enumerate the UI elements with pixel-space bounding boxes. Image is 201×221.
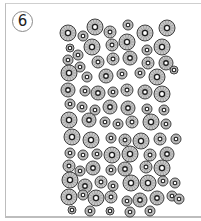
- cell: [113, 119, 123, 129]
- cell: [149, 69, 165, 85]
- cell: [103, 100, 117, 114]
- cell: [108, 87, 118, 97]
- cell: [85, 206, 95, 216]
- cell: [106, 39, 118, 51]
- cell: [140, 161, 152, 173]
- cell: [135, 68, 145, 78]
- cell: [108, 181, 118, 191]
- cell: [62, 172, 78, 188]
- cell: [144, 149, 156, 161]
- cell: [143, 114, 159, 130]
- cell: [160, 147, 174, 161]
- cell: [61, 112, 77, 128]
- cell: [106, 207, 114, 215]
- cell: [154, 86, 170, 102]
- cell: [170, 66, 178, 74]
- cell: [125, 207, 135, 217]
- cell: [174, 194, 184, 204]
- cell: [78, 31, 88, 41]
- cell: [80, 86, 90, 96]
- cell: [159, 105, 169, 115]
- cell: [66, 44, 74, 52]
- cell: [86, 161, 100, 175]
- cell: [118, 162, 132, 176]
- cell: [105, 191, 117, 203]
- cell: [154, 133, 166, 145]
- cell: [171, 134, 181, 144]
- cell: [158, 176, 168, 186]
- cell: [61, 189, 77, 205]
- cell: [65, 99, 75, 109]
- cell: [82, 113, 96, 127]
- cell: [145, 206, 155, 216]
- cell: [106, 165, 116, 175]
- cell: [107, 53, 119, 65]
- cell: [170, 178, 180, 188]
- cell: [142, 104, 152, 114]
- cell: [92, 56, 104, 68]
- cell: [123, 175, 139, 191]
- cell: [78, 190, 88, 200]
- cell: [133, 193, 147, 207]
- cell: [99, 69, 113, 83]
- cell: [78, 150, 88, 160]
- cell: [75, 166, 85, 176]
- cell: [63, 160, 75, 172]
- cell: [61, 65, 77, 81]
- cell: [123, 51, 137, 65]
- cell: [77, 102, 87, 112]
- cell: [63, 55, 73, 65]
- cell: [65, 148, 75, 158]
- cell: [83, 132, 99, 148]
- cell: [84, 39, 100, 55]
- cell: [123, 20, 133, 30]
- cell: [119, 134, 131, 146]
- cell: [121, 84, 133, 96]
- cell: [117, 69, 127, 79]
- cell: [106, 133, 116, 143]
- cell: [88, 190, 104, 206]
- cell: [68, 206, 76, 214]
- cell-cluster: [0, 0, 201, 221]
- cell: [104, 26, 116, 38]
- cell: [133, 133, 149, 149]
- cell: [122, 196, 132, 206]
- cell: [154, 39, 170, 55]
- cell: [142, 45, 152, 55]
- cell: [121, 101, 135, 115]
- cell: [154, 160, 170, 176]
- cell: [138, 85, 152, 99]
- cell: [119, 34, 135, 50]
- cell: [73, 50, 83, 60]
- cell: [92, 149, 102, 159]
- cell: [91, 86, 105, 100]
- cell: [104, 147, 120, 163]
- cell: [82, 72, 92, 82]
- cell: [150, 191, 164, 205]
- cell: [64, 129, 80, 145]
- cell: [137, 25, 153, 41]
- cell: [60, 25, 76, 41]
- cell: [126, 116, 138, 128]
- cell: [140, 175, 156, 191]
- cell: [87, 19, 103, 35]
- cell: [100, 117, 110, 127]
- cell: [142, 57, 154, 69]
- cell: [95, 176, 107, 188]
- cell: [159, 20, 175, 36]
- cell: [161, 119, 171, 129]
- cell: [122, 146, 138, 162]
- cell: [61, 83, 75, 97]
